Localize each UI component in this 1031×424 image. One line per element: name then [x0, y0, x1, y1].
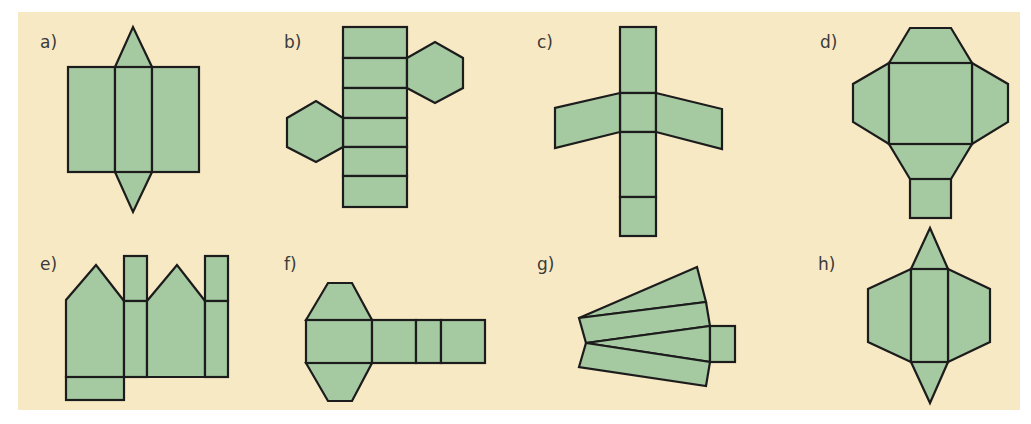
rectangle-face — [441, 320, 485, 363]
rectangle-face — [620, 132, 656, 197]
rectangle-face — [115, 67, 152, 172]
rectangle-face — [343, 27, 407, 58]
pentagon-face — [147, 265, 205, 377]
trapezoid-face — [868, 269, 911, 362]
rectangle-face — [620, 197, 656, 236]
net-g: g) — [537, 254, 735, 386]
trapezoid-face — [656, 93, 722, 149]
rectangle-face — [372, 320, 416, 363]
rectangle-face — [620, 93, 656, 132]
net-f: f) — [284, 254, 485, 401]
rectangle-face — [343, 58, 407, 88]
hexagon-face — [287, 101, 343, 162]
rectangle-face — [205, 301, 228, 377]
rectangle-face — [343, 176, 407, 207]
pentagon-face — [66, 265, 124, 377]
net-label: c) — [537, 32, 553, 52]
nets-figure: a) b) c) d) e) — [0, 0, 1031, 424]
net-label: b) — [284, 32, 301, 52]
square-face — [910, 179, 951, 218]
rectangle-face — [416, 320, 441, 363]
net-e: e) — [40, 254, 228, 400]
net-label: d) — [820, 32, 837, 52]
rectangle-face — [68, 67, 115, 172]
net-label: e) — [40, 254, 57, 274]
hexagon-face — [407, 42, 463, 103]
trapezoid-face — [889, 28, 972, 63]
trapezoid-face — [889, 144, 972, 179]
net-c: c) — [537, 27, 722, 236]
net-label: a) — [40, 32, 57, 52]
trapezoid-face — [972, 63, 1008, 144]
rectangle-face — [124, 301, 147, 377]
trapezoid-face — [948, 269, 990, 362]
net-d: d) — [820, 28, 1008, 218]
rectangle-face — [66, 377, 124, 400]
rectangle-face — [620, 27, 656, 93]
rectangle-face — [306, 320, 372, 363]
rectangle-face — [343, 147, 407, 176]
rectangle-face — [911, 269, 948, 362]
triangle-face — [115, 172, 152, 212]
trapezoid-face — [306, 363, 372, 401]
trapezoid-face — [555, 93, 620, 148]
rectangle-face — [152, 67, 199, 172]
rectangle-face — [710, 326, 735, 362]
trapezoid-face — [306, 283, 372, 320]
triangle-face — [911, 362, 948, 403]
square-face — [889, 63, 972, 144]
net-label: g) — [537, 254, 554, 274]
rectangle-face — [343, 88, 407, 118]
triangle-face — [115, 27, 152, 67]
net-label: f) — [284, 254, 297, 274]
triangle-face — [911, 228, 948, 269]
net-h: h) — [818, 228, 990, 403]
rectangle-face — [205, 256, 228, 301]
rectangle-face — [343, 118, 407, 147]
net-label: h) — [818, 254, 835, 274]
net-b: b) — [284, 27, 463, 207]
trapezoid-face — [853, 63, 889, 144]
rectangle-face — [124, 256, 147, 301]
net-a: a) — [40, 27, 199, 212]
